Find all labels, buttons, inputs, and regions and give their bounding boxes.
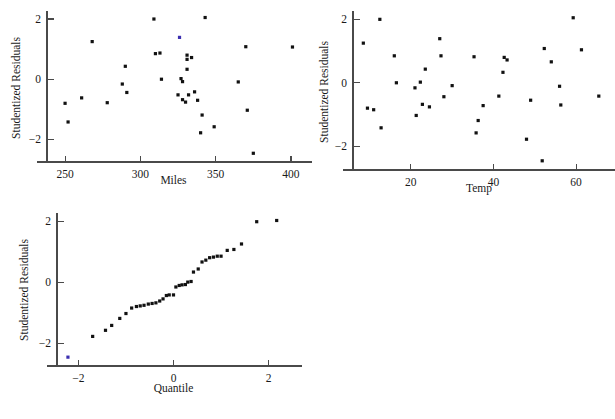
data-point [419, 81, 422, 84]
panel-normal-qq-plot: −20220−2QuantileStudentized Residuals [0, 200, 320, 419]
y-tick-label: 2 [341, 13, 347, 25]
data-point [428, 105, 431, 108]
data-point [366, 107, 369, 110]
data-point [135, 305, 138, 308]
chart-canvas-miles: 25030035040020−2MilesStudentized Residua… [0, 0, 320, 210]
data-point [232, 248, 235, 251]
x-tick-label: 350 [207, 168, 225, 180]
chart-canvas-quantile: −20220−2QuantileStudentized Residuals [0, 200, 320, 419]
data-point [240, 242, 243, 245]
data-point [244, 45, 247, 48]
data-point [181, 98, 184, 101]
data-point [147, 302, 150, 305]
data-point [130, 306, 133, 309]
data-point [181, 80, 184, 83]
data-point [451, 84, 454, 87]
data-point [208, 256, 211, 259]
data-point [550, 60, 553, 63]
data-point [187, 93, 190, 96]
data-point [168, 293, 171, 296]
x-tick-label: 400 [282, 168, 300, 180]
data-point [246, 109, 249, 112]
data-point [362, 42, 365, 45]
x-axis-title: Miles [160, 174, 187, 186]
data-point [415, 114, 418, 117]
data-point [152, 17, 155, 20]
data-point [106, 101, 109, 104]
data-point [189, 280, 192, 283]
panel-residuals-vs-miles: 25030035040020−2MilesStudentized Residua… [0, 0, 320, 210]
data-point [151, 302, 154, 305]
data-point [176, 93, 179, 96]
data-point [421, 103, 424, 106]
data-point [525, 138, 528, 141]
y-tick-label: 0 [341, 77, 347, 89]
panel-residuals-vs-temp: 20406020−2TempStudentized Residuals [320, 0, 615, 210]
data-point [541, 159, 544, 162]
y-tick-label: −2 [29, 133, 41, 145]
data-point [393, 54, 396, 57]
x-tick-label: −2 [72, 372, 84, 384]
x-tick-label: 250 [56, 168, 74, 180]
y-axis-title: Studentized Residuals [18, 239, 30, 341]
data-point [165, 294, 168, 297]
data-point [529, 99, 532, 102]
data-point [475, 131, 478, 134]
x-axis-title: Temp [466, 182, 492, 195]
data-point [80, 96, 83, 99]
data-point [139, 304, 142, 307]
data-point [91, 335, 94, 338]
data-point [291, 45, 294, 48]
data-point [503, 56, 506, 59]
data-point [178, 284, 181, 287]
data-point [216, 255, 219, 258]
data-point [124, 312, 127, 315]
data-point [482, 104, 485, 107]
data-point [121, 82, 124, 85]
y-axis-title: Studentized Residuals [318, 41, 330, 143]
data-point [174, 285, 177, 288]
data-point [395, 81, 398, 84]
data-point [158, 51, 161, 54]
data-point [497, 95, 500, 98]
data-point-highlighted [66, 356, 69, 359]
y-tick-label: 2 [45, 215, 51, 227]
data-point [559, 103, 562, 106]
data-point [477, 119, 480, 122]
data-point [543, 47, 546, 50]
data-point [186, 281, 189, 284]
data-point [118, 317, 121, 320]
data-point [190, 56, 193, 59]
data-point [501, 71, 504, 74]
data-point [179, 77, 182, 80]
data-point [505, 58, 508, 61]
x-tick-label: 300 [132, 168, 150, 180]
data-point [158, 299, 161, 302]
data-point [192, 270, 195, 273]
data-point [580, 48, 583, 51]
y-tick-label: 0 [35, 73, 41, 85]
data-point [154, 301, 157, 304]
data-point-highlighted [178, 36, 181, 39]
data-point [196, 99, 199, 102]
data-point [161, 297, 164, 300]
data-point [180, 283, 183, 286]
data-point [213, 125, 216, 128]
data-point [125, 91, 128, 94]
data-point [172, 293, 175, 296]
data-point [372, 108, 375, 111]
y-tick-label: 2 [35, 13, 41, 25]
data-point [275, 219, 278, 222]
y-tick-label: 0 [45, 276, 51, 288]
chart-canvas-temp: 20406020−2TempStudentized Residuals [320, 0, 615, 210]
data-point [442, 95, 445, 98]
data-point [204, 16, 207, 19]
data-point [572, 16, 575, 19]
data-point [185, 68, 188, 71]
y-axis-title: Studentized Residuals [10, 37, 22, 139]
data-point [255, 220, 258, 223]
data-point [124, 65, 127, 68]
data-point [91, 40, 94, 43]
data-point [160, 78, 163, 81]
data-point [472, 55, 475, 58]
